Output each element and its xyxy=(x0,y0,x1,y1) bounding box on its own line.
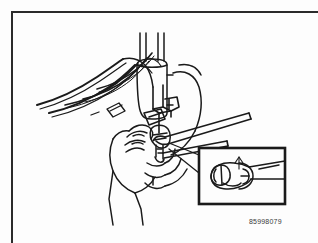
detail-inset xyxy=(199,148,285,204)
illustration-page: 85998079 xyxy=(0,0,318,243)
flexible-lines-bundle xyxy=(37,53,161,117)
figure-area: 85998079 xyxy=(13,13,318,243)
line-clamps xyxy=(91,103,125,117)
technical-line-drawing xyxy=(13,13,318,243)
vertical-canister xyxy=(137,33,173,119)
technician-hand xyxy=(109,125,187,225)
figure-reference-number: 85998079 xyxy=(249,218,282,225)
